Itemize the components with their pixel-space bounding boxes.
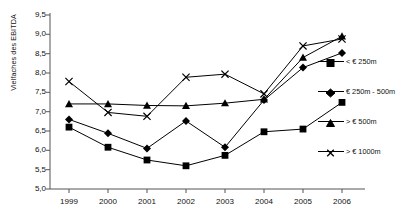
series-x [65,35,345,120]
square-marker [66,124,73,131]
legend-item-label: > € 500m [344,117,377,126]
chart-legend: < € 250m € 250m - 500m > € 500m [318,46,404,166]
x-marker-icon [318,145,344,157]
x-tick-label: 2004 [255,198,273,206]
x-tick-label: 2002 [177,198,195,206]
diamond-marker [65,115,73,123]
legend-item[interactable]: > € 500m [318,106,404,136]
triangle-marker [299,54,307,61]
x-tick-label: 2005 [294,198,312,206]
x-tick-label: 2006 [333,198,351,206]
square-marker [183,162,190,169]
legend-item[interactable]: € 250m - 500m [318,76,404,106]
legend-item-label: < € 250m [344,57,377,66]
series-line [69,36,342,106]
diamond-marker [104,129,112,137]
square-marker [105,144,112,151]
diamond-marker [182,117,190,125]
x-marker [65,78,72,85]
chart-container: 9,5 9,0 8,5 8,0 7,5 7,0 6,5 6,0 5,5 5,0 … [0,0,405,216]
square-marker [261,128,268,135]
x-tick-label: 2001 [138,198,156,206]
x-axis-ticks [69,189,342,193]
y-axis-ticks [46,15,50,189]
square-marker [300,126,307,133]
x-tick-label: 2003 [216,198,234,206]
square-marker [222,152,229,159]
triangle-marker-icon [318,115,344,127]
data-series-layer [65,32,346,169]
legend-item-label: > € 1000m [344,147,381,156]
legend-item-label: € 250m - 500m [344,87,395,96]
x-tick-label: 1999 [60,198,78,206]
diamond-marker-icon [318,85,344,97]
legend-item[interactable]: > € 1000m [318,136,404,166]
x-tick-label: 2000 [99,198,117,206]
legend-item[interactable]: < € 250m [318,46,404,76]
square-marker-icon [318,55,344,67]
square-marker [144,157,151,164]
diamond-marker [143,144,151,152]
series-diamond [65,49,346,153]
